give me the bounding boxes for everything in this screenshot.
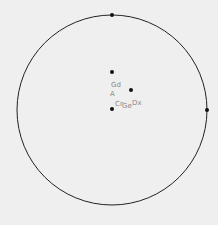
plot-point [129, 88, 133, 92]
boundary-marker [205, 108, 209, 112]
diagram-canvas [0, 0, 218, 225]
plot-point [110, 107, 114, 111]
point-label: Gd [111, 82, 121, 89]
boundary-marker [110, 13, 114, 17]
point-label: A [110, 91, 115, 98]
plot-point [110, 70, 114, 74]
point-label: Ge [122, 103, 132, 110]
point-label: Dx [132, 100, 142, 107]
